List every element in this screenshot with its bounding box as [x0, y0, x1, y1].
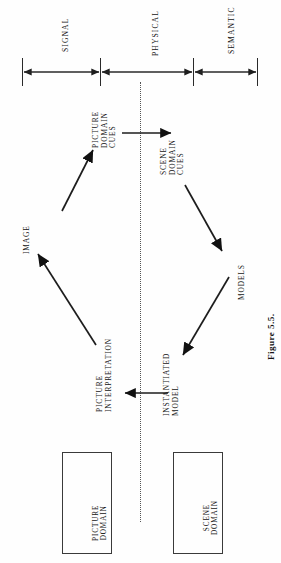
axis-label-semantic: SEMANTIC — [228, 6, 237, 54]
axis-tick-3 — [257, 58, 258, 86]
axis-tick-1 — [100, 58, 101, 86]
figure-page: SIGNAL PHYSICAL SEMANTIC PICTURE DOMAIN … — [0, 0, 281, 563]
axis-label-physical: PHYSICAL — [152, 10, 161, 56]
physical-boundary-dotted-line — [140, 82, 141, 522]
node-models: MODELS — [238, 264, 247, 300]
axis-tick-0 — [22, 58, 23, 86]
axis-label-signal: SIGNAL — [62, 18, 71, 52]
node-instantiated-model: INSTANTIATED MODEL — [163, 353, 180, 416]
node-picture-domain-cues: PICTURE DOMAIN CUES — [92, 111, 118, 148]
scene-domain-box-label: SCENE DOMAIN — [203, 500, 220, 535]
node-scene-domain-cues: SCENE DOMAIN CUES — [160, 139, 186, 175]
node-image: IMAGE — [23, 225, 32, 254]
arrow-pictureinterp-to-image — [38, 254, 96, 345]
picture-domain-box-label: PICTURE DOMAIN — [92, 505, 109, 541]
arrow-sdcues-to-models — [185, 185, 222, 251]
figure-caption: Figure 5.5. — [266, 314, 277, 360]
node-picture-interpretation: PICTURE INTERPRETATION — [96, 338, 113, 412]
arrow-image-to-pdcues — [62, 150, 93, 211]
arrow-models-to-instmodel — [183, 277, 229, 355]
axis-tick-2 — [193, 58, 194, 86]
picture-domain-box: PICTURE DOMAIN — [62, 452, 112, 554]
scene-domain-box: SCENE DOMAIN — [173, 452, 223, 554]
